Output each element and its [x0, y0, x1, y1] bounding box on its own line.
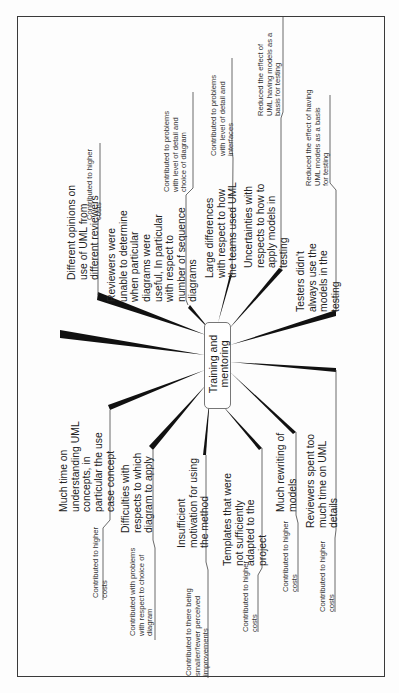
cause-large-differences: Large differences with respect to how th…	[204, 158, 239, 278]
document-page: Training and mentoring Much time on unde…	[0, 0, 399, 693]
spoke-testers	[230, 310, 336, 345]
center-node-label: Training and mentoring	[208, 326, 230, 402]
cause-testers: Testers didn't always use the models in …	[295, 212, 342, 312]
effect-large-differences: Contributed to problems with level of de…	[210, 56, 236, 156]
effect-templates: Contributed to higher costs	[242, 552, 259, 632]
cause-much-time-uml: Much time on understanding UML concepts,…	[58, 402, 116, 512]
spoke-much-time-uml	[60, 330, 205, 355]
spoke-large-differences	[218, 274, 232, 323]
cause-insufficient-motivation: Insufficient motivation for using the me…	[176, 448, 211, 548]
spoke-reviewers-details	[230, 362, 336, 372]
effect-difficulties: Contributed with problems with respect t…	[129, 541, 155, 636]
cause-difficulties: Difficulties with respects to which diag…	[120, 438, 155, 533]
effect-reviewers-unable: Contributed to problems with level of de…	[163, 92, 189, 192]
effect-different-opinions: Contributed to higher costs	[86, 140, 103, 220]
effect-much-rewriting: Contributed to higher costs	[282, 512, 299, 592]
effect-much-time-uml: Contributed to higher costs	[92, 518, 109, 598]
cause-much-rewriting: Much rewriting of models	[275, 417, 298, 512]
effect-insufficient-motivation: Contributed to there being smaller/fewer…	[185, 571, 211, 676]
cause-templates: Templates that were not sufficiently ada…	[222, 461, 269, 566]
spoke-difficulties	[149, 385, 206, 450]
spoke-templates	[222, 405, 262, 450]
cause-uncertainties: Uncertainties with respects to how to ap…	[243, 143, 290, 268]
effect-reviewers-details: Contributed to higher costs	[319, 532, 336, 612]
effect-uncertainties: Reduced the effect of UML having models …	[257, 16, 283, 116]
cause-reviewers-details: Reviewers spent too much time on UML det…	[305, 423, 340, 528]
effect-testers: Reduced the effect of having UML models …	[305, 86, 331, 186]
